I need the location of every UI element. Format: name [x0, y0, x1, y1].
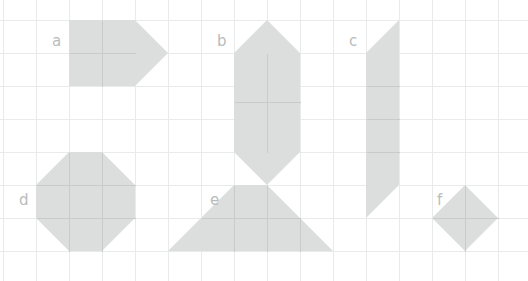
shape-label-f: f	[437, 191, 443, 209]
figure-canvas: abcdef	[0, 0, 528, 281]
shape-label-b: b	[217, 32, 227, 50]
shapes-figure: abcdef	[0, 0, 528, 281]
shape-label-a: a	[52, 32, 61, 50]
shape-label-d: d	[19, 191, 29, 209]
shape-label-c: c	[349, 32, 357, 50]
shape-label-e: e	[210, 191, 219, 209]
shape-c-slanted-column	[366, 20, 400, 218]
shape-b-hexagon-vertical	[234, 20, 301, 185]
